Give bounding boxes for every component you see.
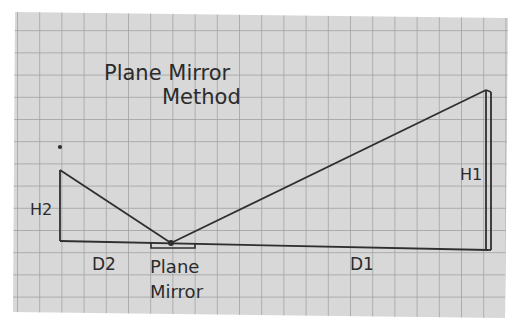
label-h2: H2 [30,200,52,219]
title-line1: Plane Mirror [104,61,231,85]
graph-paper [13,12,508,318]
label-h1: H1 [460,165,482,184]
diagram-canvas: Plane Mirror Method H2 D2 Plane Mirror H… [0,0,530,335]
label-d1: D1 [350,254,374,274]
title-line2: Method [162,85,241,109]
marker-dot [59,146,61,148]
label-d2: D2 [92,254,116,274]
label-mirror-line2: Mirror [150,281,204,302]
label-mirror-line1: Plane [150,256,199,277]
